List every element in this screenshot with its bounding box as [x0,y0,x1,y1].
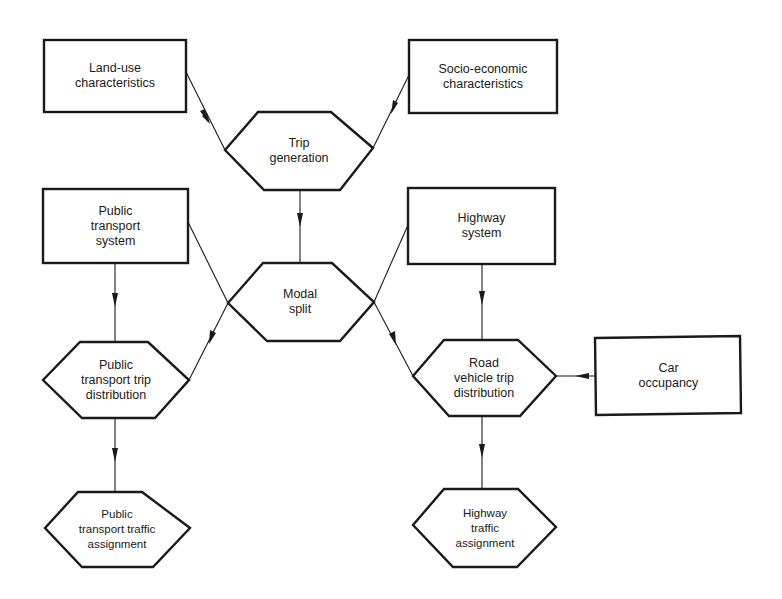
arrowhead-icon [575,373,589,379]
edge-modalsplit-to-pttripdist [189,303,228,380]
label-car-occupancy: Car occupancy [596,337,741,414]
arrowhead-icon [479,444,485,458]
arrowhead-icon [209,330,216,344]
arrowhead-icon [391,100,398,114]
label-pt-trip-distribution: Public transport trip distribution [66,342,166,418]
edge-ptsystem-to-modalsplit [188,222,228,303]
label-highway-system: Highway system [408,188,555,264]
label-socio-economic: Socio-economic characteristics [409,40,557,113]
edge-highway-to-modalsplit [374,225,408,302]
arrowhead-icon [112,448,118,462]
edge-socio-to-tripgen [373,75,409,148]
arrowhead-icon [297,213,303,227]
label-land-use: Land-use characteristics [44,40,186,112]
arrowhead-icon [112,293,118,307]
label-road-trip-distribution: Road vehicle trip distribution [434,340,534,416]
label-pt-traffic-assignment: Public transport traffic assignment [62,492,172,567]
label-modal-split: Modal split [260,263,340,341]
label-highway-traffic-assignment: Highway traffic assignment [435,489,535,567]
label-trip-generation: Trip generation [258,112,340,190]
arrowhead-icon [479,291,485,305]
label-public-transport-system: Public transport system [43,189,188,263]
edge-landuse-to-tripgen [186,72,225,150]
